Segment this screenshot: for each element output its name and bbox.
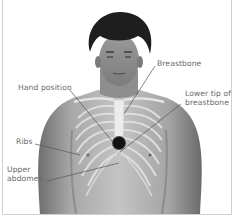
torso-illustration bbox=[0, 0, 238, 222]
label-breastbone: Breastbone bbox=[157, 59, 201, 68]
label-upper-abdomen: Upper abdomen bbox=[7, 165, 44, 183]
label-upper-abdomen-line1: Upper bbox=[7, 165, 44, 174]
label-lower-tip-line1: Lower tip of bbox=[185, 89, 231, 98]
label-ribs: Ribs bbox=[16, 137, 33, 146]
label-hand-position: Hand position bbox=[18, 83, 72, 92]
label-lower-tip-line2: breastbone bbox=[185, 98, 231, 107]
hand-position-marker bbox=[113, 137, 125, 149]
label-upper-abdomen-line2: abdomen bbox=[7, 174, 44, 183]
label-lower-tip-of-breastbone: Lower tip of breastbone bbox=[185, 89, 231, 107]
